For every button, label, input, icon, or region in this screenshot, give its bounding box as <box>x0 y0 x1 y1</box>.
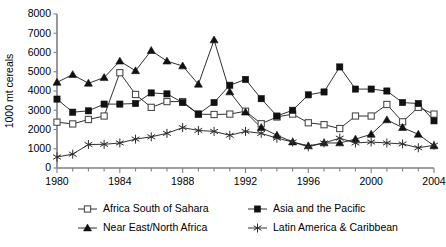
legend-label-3: Latin America & Caribbean <box>273 221 398 233</box>
y-axis-title: 1000 mt cereals <box>3 54 15 129</box>
marker-open-square-s0-p3 <box>101 113 107 119</box>
marker-star-s3-p0 <box>53 153 61 162</box>
marker-open-square-s0-p10 <box>211 111 217 117</box>
marker-open-square-s0-p20 <box>368 113 374 119</box>
y-tick-label: 5000 <box>28 65 52 77</box>
marker-open-square-s0-p1 <box>70 121 76 127</box>
marker-open-square-s0-p7 <box>164 98 170 104</box>
marker-filled-triangle-s2-p1 <box>69 71 77 78</box>
marker-open-square-s0-p17 <box>321 122 327 128</box>
marker-open-square-s0-p11 <box>227 111 233 117</box>
marker-filled-triangle-legend-2 <box>84 224 92 231</box>
x-tick-label: 1996 <box>297 175 321 187</box>
marker-filled-square-s1-p13 <box>258 96 264 102</box>
marker-filled-square-s1-p18 <box>337 64 343 70</box>
x-tick-label: 1988 <box>171 175 195 187</box>
marker-star-s3-p11 <box>226 131 234 140</box>
marker-open-square-s0-p19 <box>352 113 358 119</box>
marker-open-square-s0-p4 <box>117 70 123 76</box>
marker-open-square-s0-p6 <box>148 104 154 110</box>
marker-filled-square-s1-p16 <box>305 92 311 98</box>
marker-filled-square-legend-1 <box>254 206 260 212</box>
marker-filled-square-s1-p12 <box>242 76 248 82</box>
y-tick-label: 8000 <box>28 7 52 19</box>
marker-filled-square-s1-p0 <box>54 96 60 102</box>
legend-label-2: Near East/North Africa <box>103 221 208 233</box>
x-tick-label: 2000 <box>359 175 383 187</box>
marker-filled-square-s1-p3 <box>101 101 107 107</box>
marker-filled-triangle-s2-p4 <box>116 57 124 64</box>
marker-star-s3-p1 <box>69 150 77 159</box>
marker-filled-square-s1-p7 <box>164 91 170 97</box>
marker-open-square-s0-p24 <box>431 111 437 117</box>
marker-filled-triangle-s2-p23 <box>414 130 422 137</box>
marker-filled-triangle-s2-p7 <box>163 57 171 64</box>
marker-filled-triangle-s2-p0 <box>53 78 61 85</box>
y-tick-label: 3000 <box>28 104 52 116</box>
legend-item-1[interactable]: Asia and the Pacific <box>248 202 365 214</box>
marker-open-square-s0-p0 <box>54 119 60 125</box>
marker-open-square-s0-p5 <box>132 91 138 97</box>
marker-filled-square-s1-p4 <box>117 101 123 107</box>
marker-filled-square-s1-p23 <box>415 100 421 106</box>
legend-item-0[interactable]: Africa South of Sahara <box>78 202 209 214</box>
marker-filled-square-s1-p8 <box>180 99 186 105</box>
marker-filled-square-s1-p10 <box>211 99 217 105</box>
y-tick-label: 1000 <box>28 142 52 154</box>
marker-filled-square-s1-p1 <box>70 109 76 115</box>
y-tick-label: 0 <box>45 161 51 173</box>
y-tick-label: 6000 <box>28 46 52 58</box>
chart-container: 0100020003000400050006000700080001980198… <box>0 0 446 247</box>
y-tick-label: 7000 <box>28 27 52 39</box>
marker-open-square-legend-0 <box>84 206 90 212</box>
legend-label-1: Asia and the Pacific <box>273 202 365 214</box>
legend-label-0: Africa South of Sahara <box>103 202 209 214</box>
legend-item-3[interactable]: Latin America & Caribbean <box>248 221 398 233</box>
marker-star-s3-p8 <box>179 123 187 132</box>
marker-filled-square-s1-p6 <box>148 90 154 96</box>
y-tick-label: 4000 <box>28 84 52 96</box>
marker-filled-triangle-s2-p11 <box>226 88 234 95</box>
marker-filled-square-s1-p21 <box>384 88 390 94</box>
marker-filled-square-s1-p20 <box>368 86 374 92</box>
marker-filled-square-s1-p15 <box>290 107 296 113</box>
marker-filled-square-s1-p9 <box>195 111 201 117</box>
marker-open-square-s0-p16 <box>305 120 311 126</box>
marker-filled-square-s1-p19 <box>352 86 358 92</box>
y-tick-label: 2000 <box>28 123 52 135</box>
legend-item-2[interactable]: Near East/North Africa <box>78 221 208 233</box>
marker-filled-triangle-s2-p6 <box>147 47 155 54</box>
marker-filled-triangle-s2-p10 <box>210 36 218 43</box>
marker-filled-square-s1-p5 <box>132 100 138 106</box>
line-chart: 0100020003000400050006000700080001980198… <box>0 0 446 247</box>
marker-star-s3-p7 <box>163 129 171 138</box>
x-tick-label: 1984 <box>108 175 132 187</box>
x-tick-label: 1980 <box>45 175 69 187</box>
marker-open-square-s0-p21 <box>384 101 390 107</box>
marker-filled-square-s1-p24 <box>431 118 437 124</box>
marker-filled-triangle-s2-p21 <box>383 116 391 123</box>
x-tick-label: 1992 <box>234 175 258 187</box>
marker-filled-square-s1-p22 <box>399 99 405 105</box>
marker-open-square-s0-p2 <box>85 116 91 122</box>
marker-filled-square-s1-p2 <box>85 108 91 114</box>
x-tick-label: 2004 <box>422 175 446 187</box>
marker-filled-square-s1-p17 <box>321 89 327 95</box>
marker-filled-square-s1-p14 <box>274 113 280 119</box>
marker-star-s3-p18 <box>336 134 344 143</box>
marker-open-square-s0-p18 <box>337 125 343 131</box>
